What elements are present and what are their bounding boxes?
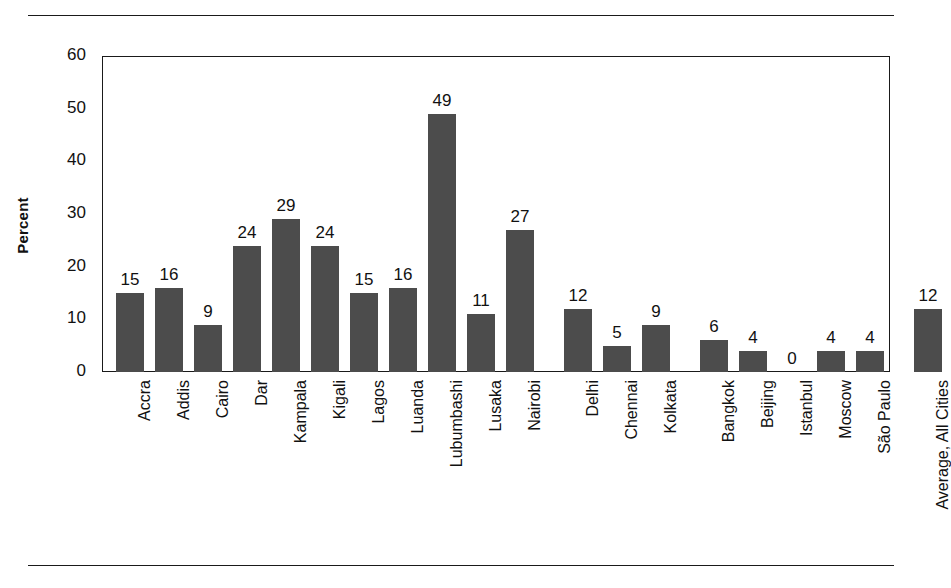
- x-axis-label: Moscow: [817, 376, 845, 546]
- bar-value-label: 4: [826, 329, 835, 347]
- x-axis-label-text: Chennai: [624, 380, 640, 440]
- bar-value-label: 16: [160, 266, 179, 284]
- x-axis-label: Kampala: [272, 376, 300, 546]
- bar-rect[interactable]: [233, 246, 261, 372]
- bar[interactable]: 9: [642, 56, 670, 372]
- bar[interactable]: 16: [389, 56, 417, 372]
- x-axis-label-text: Average, All Cities: [935, 380, 951, 510]
- x-axis-label-text: Lubumbashi: [449, 380, 465, 467]
- bar[interactable]: 16: [155, 56, 183, 372]
- bar-rect[interactable]: [603, 346, 631, 372]
- x-axis-label: Addis: [155, 376, 183, 546]
- bar[interactable]: 12: [914, 56, 942, 372]
- bar[interactable]: 5: [603, 56, 631, 372]
- bar-rect[interactable]: [155, 288, 183, 372]
- x-axis-label-text: Istanbul: [799, 380, 815, 436]
- bar-rect[interactable]: [194, 325, 222, 372]
- x-axis-label: Delhi: [564, 376, 592, 546]
- y-tick-label: 30: [67, 203, 86, 223]
- bar[interactable]: 11: [467, 56, 495, 372]
- y-tick-label: 60: [67, 45, 86, 65]
- bar[interactable]: 27: [506, 56, 534, 372]
- bar-rect[interactable]: [116, 293, 144, 372]
- bar-rect[interactable]: [467, 314, 495, 372]
- x-axis-label: Bangkok: [700, 376, 728, 546]
- bar-value-label: 27: [511, 208, 530, 226]
- bar-rect[interactable]: [817, 351, 845, 372]
- bar-rect[interactable]: [739, 351, 767, 372]
- x-axis-label-text: Kampala: [293, 380, 309, 443]
- bar-rect[interactable]: [914, 309, 942, 372]
- bar-rect[interactable]: [564, 309, 592, 372]
- bars-layer: 15169242924151649112712596404412: [102, 56, 890, 372]
- bar[interactable]: 4: [817, 56, 845, 372]
- bar-value-label: 15: [121, 271, 140, 289]
- bar-value-label: 16: [394, 266, 413, 284]
- x-axis-label-text: Delhi: [585, 380, 601, 416]
- bar-value-label: 6: [709, 318, 718, 336]
- x-axis-label: Kolkata: [642, 376, 670, 546]
- bar-value-label: 49: [433, 92, 452, 110]
- x-axis-label: Istanbul: [778, 376, 806, 546]
- bar-rect[interactable]: [389, 288, 417, 372]
- x-axis-label-text: Addis: [176, 380, 192, 420]
- x-axis-label: Accra: [116, 376, 144, 546]
- x-axis-label-text: Kigali: [332, 380, 348, 419]
- bar[interactable]: 29: [272, 56, 300, 372]
- bar-rect[interactable]: [856, 351, 884, 372]
- x-axis-label-text: Luanda: [410, 380, 426, 433]
- bar-value-label: 9: [203, 303, 212, 321]
- bar-value-label: 12: [919, 287, 938, 305]
- x-axis-label-text: São Paulo: [877, 380, 893, 454]
- bar-rect[interactable]: [700, 340, 728, 372]
- x-axis-label: Dar: [233, 376, 261, 546]
- bar-rect[interactable]: [506, 230, 534, 372]
- y-tick-label: 40: [67, 150, 86, 170]
- x-axis-label: Nairobi: [506, 376, 534, 546]
- bar[interactable]: 0: [778, 56, 806, 372]
- bar-rect[interactable]: [350, 293, 378, 372]
- bar-rect[interactable]: [272, 219, 300, 372]
- bar-value-label: 11: [472, 292, 490, 310]
- bar[interactable]: 6: [700, 56, 728, 372]
- x-axis-label-text: Nairobi: [527, 380, 543, 431]
- bar-value-label: 15: [355, 271, 374, 289]
- bar-value-label: 4: [865, 329, 874, 347]
- bar[interactable]: 4: [856, 56, 884, 372]
- bar-value-label: 0: [787, 350, 796, 368]
- bar[interactable]: 4: [739, 56, 767, 372]
- x-axis-label-text: Accra: [137, 380, 153, 421]
- bottom-rule: [28, 565, 894, 566]
- bar-rect[interactable]: [642, 325, 670, 372]
- y-tick-label: 20: [67, 256, 86, 276]
- x-axis-label: Average, All Cities: [914, 376, 942, 546]
- x-axis-label-text: Dar: [254, 380, 270, 406]
- x-axis-label-text: Cairo: [215, 380, 231, 418]
- bar-rect[interactable]: [428, 114, 456, 372]
- top-rule: [28, 15, 894, 16]
- bar[interactable]: 24: [233, 56, 261, 372]
- bar-value-label: 4: [748, 329, 757, 347]
- x-axis-label: Cairo: [194, 376, 222, 546]
- y-tick-label: 10: [67, 308, 86, 328]
- bar-value-label: 9: [651, 303, 660, 321]
- x-axis-label-text: Lusaka: [488, 380, 504, 432]
- y-axis-title: Percent: [11, 170, 33, 280]
- bar[interactable]: 9: [194, 56, 222, 372]
- x-axis-label: Kigali: [311, 376, 339, 546]
- x-axis-labels: AccraAddisCairoDarKampalaKigaliLagosLuan…: [102, 376, 890, 556]
- y-axis-title-text: Percent: [14, 197, 31, 253]
- bar-value-label: 29: [277, 197, 296, 215]
- bar[interactable]: 24: [311, 56, 339, 372]
- bar-rect[interactable]: [311, 246, 339, 372]
- x-axis-label: Chennai: [603, 376, 631, 546]
- bar[interactable]: 12: [564, 56, 592, 372]
- bar[interactable]: 15: [116, 56, 144, 372]
- bar[interactable]: 49: [428, 56, 456, 372]
- x-axis-label-text: Lagos: [371, 380, 387, 424]
- bar[interactable]: 15: [350, 56, 378, 372]
- bar-value-label: 5: [612, 324, 621, 342]
- bar-value-label: 24: [316, 224, 335, 242]
- x-axis-label-text: Kolkata: [663, 380, 679, 433]
